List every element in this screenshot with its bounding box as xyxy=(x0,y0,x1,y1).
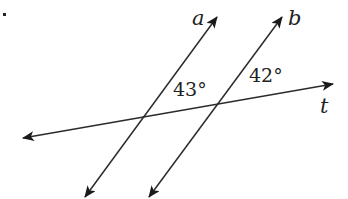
line-b xyxy=(149,17,282,197)
line-a-label: a xyxy=(192,8,205,29)
line-t-label: t xyxy=(320,96,328,117)
angle-43-label: 43° xyxy=(173,80,207,99)
angle-42-label: 42° xyxy=(249,66,283,85)
line-b-label: b xyxy=(288,8,301,29)
